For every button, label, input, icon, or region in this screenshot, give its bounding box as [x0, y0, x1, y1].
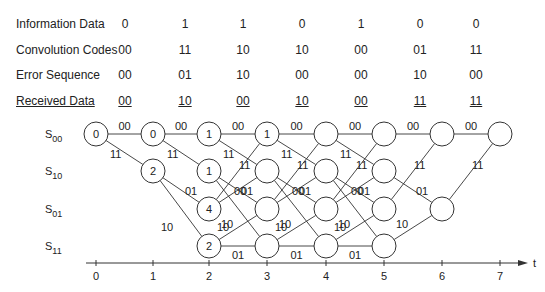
branch-label: 00 — [465, 120, 477, 132]
branch-label: 11 — [223, 148, 234, 160]
trellis-node — [372, 234, 396, 258]
branch-label: 01 — [185, 185, 197, 197]
path-metric: 1 — [206, 165, 212, 177]
trellis-node — [314, 122, 338, 146]
trellis-node — [255, 159, 279, 183]
branch-label: 01 — [232, 249, 244, 261]
trellis-node — [372, 122, 396, 146]
branch-label: 11 — [340, 148, 351, 160]
trellis-node — [430, 122, 454, 146]
branch-label: 00 — [292, 185, 304, 197]
branch-label: 00 — [119, 120, 131, 132]
branch-label: 11 — [167, 148, 178, 160]
branch-label: 01 — [291, 249, 303, 261]
time-tick-label: 7 — [497, 270, 503, 282]
state-label: S01 — [45, 203, 62, 219]
branch-label: 00 — [234, 185, 246, 197]
path-metric: 2 — [206, 240, 212, 252]
branch-S01-S00 — [449, 143, 492, 199]
state-label: S00 — [45, 128, 62, 144]
trellis-node: 1 — [255, 122, 279, 146]
branch-label: 11 — [297, 159, 308, 171]
branch-label: 11 — [110, 148, 121, 160]
branch-label: 10 — [279, 218, 291, 230]
time-tick-label: 5 — [381, 270, 387, 282]
path-metric: 4 — [206, 203, 212, 215]
branch-labels: 0011001101100011011011001001001101101100… — [110, 120, 483, 261]
branch-label: 11 — [472, 159, 483, 171]
path-metric: 2 — [150, 165, 156, 177]
trellis-node — [314, 197, 338, 221]
trellis-node — [372, 197, 396, 221]
branch-label: 00 — [291, 120, 303, 132]
branch-label: 00 — [351, 185, 363, 197]
path-metric: 0 — [150, 128, 156, 140]
path-metric: 0 — [93, 128, 99, 140]
branch-label: 11 — [281, 148, 292, 160]
trellis-node — [255, 234, 279, 258]
branch-label: 00 — [407, 120, 419, 132]
time-tick-label: 6 — [439, 270, 445, 282]
state-label: S10 — [45, 165, 62, 181]
branch-label: 10 — [221, 218, 233, 230]
branch-label: 10 — [338, 218, 350, 230]
trellis-node: 2 — [197, 234, 221, 258]
time-axis-label: t — [533, 257, 536, 269]
path-metric: 1 — [264, 128, 270, 140]
branch-label: 11 — [356, 159, 367, 171]
trellis-node — [430, 197, 454, 221]
time-axis: 01234567t — [86, 257, 536, 282]
state-label: S11 — [45, 240, 62, 256]
branch-label: 01 — [349, 249, 361, 261]
branch-label: 00 — [232, 120, 244, 132]
branch-label: 10 — [396, 218, 408, 230]
trellis-diagram: S00S10S01S110011001101100011011011001001… — [0, 0, 545, 292]
trellis-node: 0 — [141, 122, 165, 146]
time-tick-label: 2 — [206, 270, 212, 282]
branch-label: 01 — [416, 185, 428, 197]
trellis-node — [314, 159, 338, 183]
trellis-node: 4 — [197, 197, 221, 221]
trellis-node — [255, 197, 279, 221]
trellis-node: 1 — [197, 159, 221, 183]
trellis-node: 2 — [141, 159, 165, 183]
trellis-node — [314, 234, 338, 258]
branch-label: 10 — [161, 221, 173, 233]
path-metric: 1 — [206, 128, 212, 140]
time-tick-label: 4 — [323, 270, 329, 282]
branch-label: 11 — [414, 159, 425, 171]
branch-label: 00 — [349, 120, 361, 132]
trellis-node: 1 — [197, 122, 221, 146]
branch-label: 11 — [239, 159, 250, 171]
time-tick-label: 0 — [93, 270, 99, 282]
trellis-node: 0 — [84, 122, 108, 146]
time-tick-label: 3 — [264, 270, 270, 282]
branch-label: 00 — [175, 120, 187, 132]
trellis-node — [372, 159, 396, 183]
trellis-node — [488, 122, 512, 146]
time-tick-label: 1 — [150, 270, 156, 282]
